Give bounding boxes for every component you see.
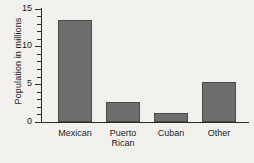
x-axis-category-label: Mexican — [50, 128, 100, 138]
y-axis-tick-label: 10 — [14, 41, 32, 50]
x-axis-category-label: Puerto Rican — [98, 128, 148, 148]
y-axis-tick-label: 15 — [14, 4, 32, 13]
x-axis-category-label: Cuban — [146, 128, 196, 138]
bar-chart: Population in millions 151050 MexicanPue… — [0, 0, 254, 163]
y-axis-tick-label: 5 — [14, 79, 32, 88]
x-axis-category-label: Other — [194, 128, 244, 138]
bar — [106, 102, 140, 122]
bar — [58, 20, 92, 122]
bar — [202, 82, 236, 122]
bar — [154, 113, 188, 122]
x-axis-line — [41, 122, 249, 123]
y-axis-tick-labels: 151050 — [12, 0, 32, 163]
y-axis-line — [41, 8, 42, 123]
y-axis-tick-label: 0 — [14, 117, 32, 126]
